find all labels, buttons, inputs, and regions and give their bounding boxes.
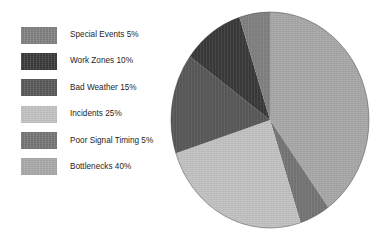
legend-label-poor-signal-timing: Poor Signal Timing 5% bbox=[70, 136, 153, 146]
legend-swatch-work-zones bbox=[21, 53, 57, 70]
legend-label-bad-weather: Bad Weather 15% bbox=[70, 83, 137, 93]
pie-chart-figure: Special Events 5% Work Zones 10% Bad Wea… bbox=[0, 0, 389, 241]
legend-swatch-special-events bbox=[21, 27, 57, 44]
legend-item-incidents[interactable]: Incidents 25% bbox=[21, 105, 171, 123]
pie-chart-svg bbox=[170, 10, 370, 230]
legend-label-special-events: Special Events 5% bbox=[70, 30, 139, 40]
legend-swatch-incidents bbox=[21, 106, 57, 123]
legend-swatch-poor-signal-timing bbox=[21, 132, 57, 149]
chart-legend: Special Events 5% Work Zones 10% Bad Wea… bbox=[21, 26, 171, 184]
legend-label-work-zones: Work Zones 10% bbox=[70, 56, 133, 66]
legend-swatch-bottlenecks bbox=[21, 158, 57, 175]
legend-label-bottlenecks: Bottlenecks 40% bbox=[70, 162, 131, 172]
legend-item-poor-signal-timing[interactable]: Poor Signal Timing 5% bbox=[21, 132, 171, 150]
legend-item-work-zones[interactable]: Work Zones 10% bbox=[21, 52, 171, 70]
legend-label-incidents: Incidents 25% bbox=[70, 109, 122, 119]
legend-item-special-events[interactable]: Special Events 5% bbox=[21, 26, 171, 44]
legend-item-bottlenecks[interactable]: Bottlenecks 40% bbox=[21, 158, 171, 176]
legend-item-bad-weather[interactable]: Bad Weather 15% bbox=[21, 79, 171, 97]
pie-chart-plot-area bbox=[170, 10, 370, 230]
pie-slices-group bbox=[171, 12, 369, 228]
legend-swatch-bad-weather bbox=[21, 79, 57, 96]
